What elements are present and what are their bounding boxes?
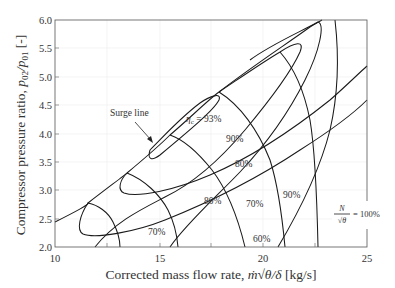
svg-text:N: N [338,204,345,213]
svg-text:√θ: √θ [338,216,346,225]
surge-line-label: Surge line [110,108,149,118]
tick-marks [55,48,315,247]
x-tick-15: 15 [155,253,166,264]
label-80-speed: 80% [204,196,222,206]
speed-100-label: N √θ = 100% [332,201,392,229]
x-tick-25: 25 [362,253,373,264]
y-axis-label: Compressor pressure ratio, p02/p01 [-] [13,35,30,236]
efficiency-line-60 [88,203,120,247]
speed-line-100 [278,20,337,247]
label-70-efficiency: 70% [148,227,166,237]
compressor-map-chart: 10 15 20 25 2.0 2.5 3.0 3.5 4.0 4.5 5.0 … [0,0,395,288]
efficiency-line-80b [280,52,318,247]
speed-line-80 [95,44,301,247]
label-80-efficiency: 80% [235,159,253,169]
y-tick-6.0: 6.0 [39,15,52,26]
y-tick-4.5: 4.5 [39,100,52,111]
x-tick-10: 10 [50,253,61,264]
x-tick-20: 20 [258,253,269,264]
x-axis-label: Corrected mass flow rate, ṁ√θ/δ [kg/s] [106,267,317,282]
label-70-speed: 70% [246,199,264,209]
y-tick-5.5: 5.5 [39,43,52,54]
y-tick-3.0: 3.0 [39,185,52,196]
y-tick-4.0: 4.0 [39,129,52,140]
y-tick-3.5: 3.5 [39,157,52,168]
y-tick-5.0: 5.0 [39,72,52,83]
y-tick-2.5: 2.5 [39,214,52,225]
y-tick-labels: 2.0 2.5 3.0 3.5 4.0 4.5 5.0 5.5 6.0 [39,15,52,253]
surge-arrow [135,122,153,143]
label-60-speed: 60% [253,234,271,244]
efficiency-line-90 [170,135,245,247]
svg-text:= 100%: = 100% [353,209,380,219]
efficiency-line-80 [219,92,285,247]
y-tick-2.0: 2.0 [39,242,52,253]
speed-line-60 [79,100,367,236]
grid-lines [55,20,367,247]
label-90-speed: 90% [283,190,301,200]
x-tick-labels: 10 15 20 25 [50,253,373,264]
label-90-efficiency: 90% [226,134,244,144]
